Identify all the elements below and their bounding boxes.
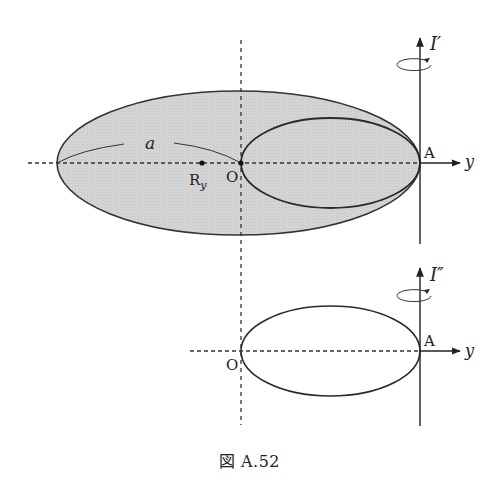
label-A-top: A [423,144,435,162]
figure-caption: 図 A.52 [0,448,499,472]
top-diagram: a Ry O A y I′ [28,33,475,425]
ellipse-rotation-diagram: a Ry O A y I′ O A y I″ [0,0,499,496]
label-I-prime: I′ [429,33,441,54]
point-O-dot [238,160,243,165]
label-y-bottom: y [464,341,475,360]
label-I-double-prime: I″ [429,264,444,285]
rotation-arrow-icon [397,289,431,302]
point-Ry-dot [199,160,204,165]
label-O-bottom: O [226,356,238,374]
label-a: a [145,133,155,153]
label-A-bottom: A [423,332,435,350]
bottom-diagram: O A y I″ [190,264,475,426]
label-y-top: y [464,152,475,171]
rotation-arrow-icon [397,58,431,71]
label-O-top: O [226,168,238,186]
